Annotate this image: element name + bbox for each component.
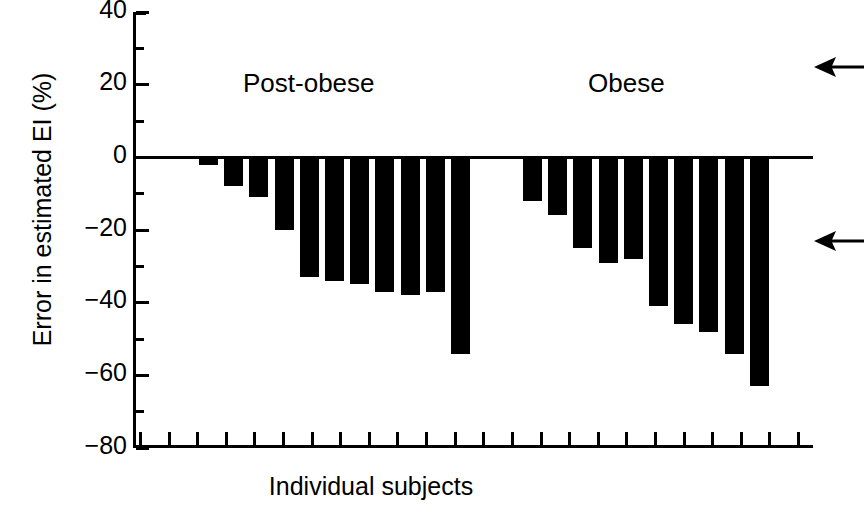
y-tick-minor	[136, 120, 144, 123]
x-axis-title-text: Individual subjects	[269, 472, 473, 500]
y-tick-major: −40	[136, 301, 149, 304]
y-tick-label: −60	[17, 358, 127, 387]
y-tick-major: −60	[136, 374, 149, 377]
bar	[523, 157, 542, 201]
y-tick-label: 20	[17, 67, 127, 96]
x-tick	[139, 432, 142, 445]
bar	[451, 157, 470, 353]
x-tick	[225, 432, 228, 445]
y-tick-minor	[136, 265, 144, 268]
lower-arrow-annotation-icon	[812, 228, 864, 254]
x-tick	[654, 432, 657, 445]
x-axis-line	[133, 445, 813, 448]
bar	[224, 157, 243, 186]
x-axis-title: Individual subjects	[0, 472, 868, 501]
y-tick-label: 40	[17, 0, 127, 24]
bar	[573, 157, 592, 248]
x-tick	[768, 432, 771, 445]
x-tick	[168, 432, 171, 445]
bar	[401, 157, 420, 295]
y-tick-major: 20	[136, 83, 149, 86]
group-label-obese: Obese	[588, 68, 665, 99]
x-tick	[540, 432, 543, 445]
x-tick	[597, 432, 600, 445]
x-tick	[740, 432, 743, 445]
x-tick	[797, 432, 800, 445]
x-tick	[482, 432, 485, 445]
y-tick-label: −80	[17, 431, 127, 460]
bar	[199, 157, 218, 164]
bar	[624, 157, 643, 259]
bar	[350, 157, 369, 284]
x-tick	[253, 432, 256, 445]
x-tick	[425, 432, 428, 445]
x-tick	[282, 432, 285, 445]
bar	[649, 157, 668, 306]
x-tick	[711, 432, 714, 445]
x-tick	[368, 432, 371, 445]
bar	[325, 157, 344, 281]
bar	[275, 157, 294, 230]
y-tick-minor	[136, 192, 144, 195]
upper-arrow-annotation-icon	[812, 54, 864, 80]
bar	[750, 157, 769, 386]
y-tick-label: −40	[17, 285, 127, 314]
chart-figure: Error in estimated EI (%) 40200−20−40−60…	[0, 0, 868, 519]
bar	[548, 157, 567, 215]
y-tick-label: −20	[17, 213, 127, 242]
x-tick	[511, 432, 514, 445]
group-label-post-obese: Post-obese	[243, 68, 375, 99]
plot-area: 40200−20−40−60−80	[133, 12, 813, 448]
y-axis-title: Error in estimated EI (%)	[28, 0, 57, 420]
bar	[725, 157, 744, 353]
x-tick	[396, 432, 399, 445]
x-tick	[196, 432, 199, 445]
bar	[674, 157, 693, 324]
y-tick-major: −80	[136, 447, 149, 450]
y-tick-minor	[136, 47, 144, 50]
x-tick	[568, 432, 571, 445]
bar	[249, 157, 268, 197]
y-tick-minor	[136, 338, 144, 341]
x-tick	[311, 432, 314, 445]
bar	[300, 157, 319, 277]
x-tick	[339, 432, 342, 445]
x-tick	[683, 432, 686, 445]
x-tick	[625, 432, 628, 445]
y-tick-label: 0	[17, 140, 127, 169]
x-tick	[454, 432, 457, 445]
bar	[699, 157, 718, 331]
bar	[426, 157, 445, 291]
y-tick-minor	[136, 410, 144, 413]
bar	[375, 157, 394, 291]
bar	[599, 157, 618, 262]
y-tick-major: 0	[136, 156, 149, 159]
y-tick-major: 40	[136, 11, 149, 14]
y-tick-major: −20	[136, 229, 149, 232]
